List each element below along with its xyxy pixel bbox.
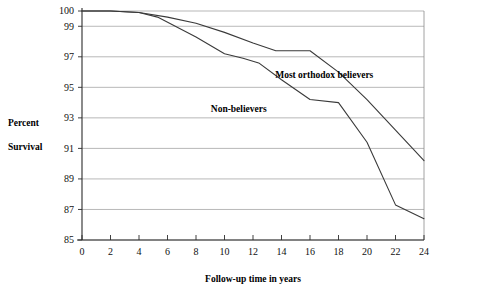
y-axis-title-line-2: Survival <box>8 142 43 152</box>
y-tick-label-97: 97 <box>64 51 74 62</box>
x-tick-label-16: 16 <box>305 246 315 257</box>
x-tick-label-4: 4 <box>137 246 142 257</box>
series-annotation-most-orthodox-believers: Most orthodox believers <box>275 70 373 80</box>
x-tick-label-2: 2 <box>108 246 113 257</box>
x-tick-label-14: 14 <box>277 246 287 257</box>
y-tick-label-89: 89 <box>64 173 74 184</box>
x-tick-label-6: 6 <box>165 246 170 257</box>
y-tick-label-100: 100 <box>59 5 74 16</box>
chart-canvas: 8587899193959799100 02468101214161820222… <box>0 0 478 289</box>
x-tick-label-24: 24 <box>419 246 429 257</box>
y-tick-label-93: 93 <box>64 112 74 123</box>
x-tick-label-18: 18 <box>334 246 344 257</box>
y-tick-label-91: 91 <box>64 143 74 154</box>
survival-chart: 8587899193959799100 02468101214161820222… <box>0 0 478 289</box>
y-axis-title-line-1: Percent <box>8 118 40 128</box>
x-tick-label-12: 12 <box>248 246 258 257</box>
x-tick-label-22: 22 <box>391 246 401 257</box>
x-tick-label-20: 20 <box>362 246 372 257</box>
y-tick-label-87: 87 <box>64 204 74 215</box>
x-tick-label-8: 8 <box>194 246 199 257</box>
x-tick-label-0: 0 <box>80 246 85 257</box>
y-tick-label-85: 85 <box>64 234 74 245</box>
y-tick-label-99: 99 <box>64 21 74 32</box>
y-tick-label-95: 95 <box>64 82 74 93</box>
x-tick-label-10: 10 <box>220 246 230 257</box>
x-axis-title: Follow-up time in years <box>205 274 301 284</box>
series-annotation-non-believers: Non-believers <box>211 104 267 114</box>
